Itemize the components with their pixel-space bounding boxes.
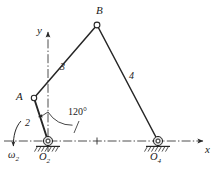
joint-label-O4-text: O (150, 151, 158, 162)
omega2-sub: 2 (15, 155, 19, 163)
joint-label-O2-text: O (39, 151, 47, 162)
link-2 (34, 98, 48, 141)
x-axis-label: x (205, 144, 210, 155)
ground-pivot-O2 (35, 136, 61, 151)
omega2-arrow (13, 121, 21, 146)
joint-label-O2: O2 (39, 152, 50, 165)
link-label-2: 2 (25, 118, 30, 128)
link-label-3: 3 (60, 62, 65, 72)
angle-label-120: 120° (68, 107, 87, 117)
omega2-label: ω2 (8, 150, 19, 163)
joint-label-B: B (96, 5, 103, 16)
linkage-drawing (0, 0, 216, 172)
joint-label-O4-sub: 4 (158, 157, 162, 165)
angle-leader (74, 121, 79, 133)
joint-A (31, 95, 36, 100)
link-label-4: 4 (129, 71, 134, 81)
ground-pivot-O4 (145, 136, 171, 151)
y-axis-label: y (37, 25, 42, 36)
link-4 (97, 25, 158, 141)
link-3 (34, 25, 97, 98)
linkage-figure: B A O2 O4 2 3 4 120° y x ω2 (0, 0, 216, 172)
joint-label-A: A (16, 91, 23, 102)
joint-label-O4: O4 (150, 152, 161, 165)
joint-label-O2-sub: 2 (47, 157, 51, 165)
joint-B (94, 22, 100, 28)
